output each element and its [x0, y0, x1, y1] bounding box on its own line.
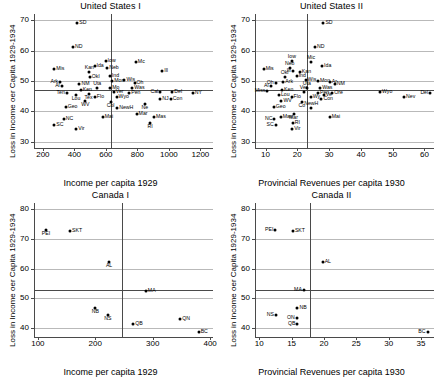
y-axis-tick-label: 40	[3, 324, 29, 332]
data-point-label: Wyo	[382, 89, 392, 94]
data-point-label: Pen	[131, 91, 140, 96]
gridline-horizontal	[35, 298, 213, 299]
data-point	[159, 91, 162, 94]
y-axis-tick-label: 30	[3, 138, 29, 146]
data-point	[309, 60, 312, 63]
data-point	[273, 117, 276, 120]
y-axis-tick-label: 70	[3, 235, 29, 243]
plot-area: 3040506070102030405060SDNDIowMicIdaNebMi…	[255, 14, 434, 149]
data-point-label: Geo	[68, 104, 78, 109]
data-point	[275, 314, 278, 317]
data-point-label: NewH	[119, 105, 133, 110]
data-point-label: Mas	[283, 114, 293, 119]
x-axis-tick-mark	[153, 337, 154, 340]
y-axis-tick-mark	[252, 209, 255, 210]
data-point-label: NS	[267, 313, 274, 318]
data-point	[269, 85, 272, 88]
y-axis-tick-mark	[31, 81, 34, 82]
data-point-label: Lou	[72, 96, 81, 101]
y-axis-tick-label: 30	[224, 138, 250, 146]
plot-area: 4050607080100200300400PEISKTALMANBNSQBQN…	[34, 203, 213, 338]
data-point-label: NB	[92, 309, 99, 314]
data-point-label: Geo	[276, 104, 286, 109]
y-axis-tick-label: 60	[224, 47, 250, 55]
data-point-label: Mic	[307, 55, 315, 60]
x-axis-tick-label: 30	[325, 151, 334, 159]
plot-area: 304050607020040060080010001200SDNDMisArk…	[34, 14, 213, 149]
gridline-horizontal	[35, 209, 213, 210]
gridline-horizontal	[35, 20, 213, 21]
y-axis-tick-mark	[252, 111, 255, 112]
x-axis-tick-mark	[324, 337, 325, 340]
y-axis-tick-label: 40	[224, 107, 250, 115]
data-point-label: Al	[55, 84, 60, 89]
y-axis-tick-mark	[31, 328, 34, 329]
data-point	[96, 87, 99, 90]
data-point-label: QB	[288, 322, 296, 327]
y-axis-tick-mark	[252, 20, 255, 21]
gridline-horizontal	[35, 328, 213, 329]
gridline-horizontal	[35, 142, 213, 143]
data-point	[295, 316, 298, 319]
data-point-label: SKT	[72, 228, 82, 233]
panel-canada-2: Canada II Loss in Income oer Capita 1929…	[221, 189, 442, 378]
x-axis-label: Income per capita 1929	[0, 367, 221, 377]
data-point-label: SC	[56, 122, 63, 127]
data-point-label: WV	[81, 102, 89, 107]
y-axis-tick-label: 50	[3, 294, 29, 302]
x-axis-tick-mark	[329, 148, 330, 151]
data-point-label: Ark	[285, 80, 293, 85]
data-point	[266, 90, 269, 93]
data-point-label: Ten	[56, 91, 64, 96]
data-point-label: PEI	[265, 227, 273, 232]
x-axis-tick-label: 1200	[191, 151, 209, 159]
x-axis-tick-mark	[74, 148, 75, 151]
y-axis-tick-mark	[31, 111, 34, 112]
data-point	[429, 91, 432, 94]
data-point-label: Uta	[93, 81, 101, 86]
gridline-horizontal	[256, 20, 434, 21]
data-point-label: NewH	[304, 101, 318, 106]
data-point-label: MA	[148, 289, 156, 294]
data-point	[60, 85, 63, 88]
data-point-label: QB	[135, 322, 143, 327]
x-axis-tick-label: 20	[293, 151, 302, 159]
x-axis-tick-mark	[200, 148, 201, 151]
y-axis-tick-label: 50	[3, 77, 29, 85]
gridline-horizontal	[256, 298, 434, 299]
y-axis-tick-mark	[31, 209, 34, 210]
data-point	[291, 69, 294, 72]
y-axis-tick-label: 40	[224, 324, 250, 332]
x-axis-tick-label: 300	[146, 340, 159, 348]
data-point	[302, 288, 305, 291]
y-axis-tick-label: 60	[3, 47, 29, 55]
data-point-label: Mai	[105, 114, 113, 119]
y-axis-tick-label: 40	[3, 107, 29, 115]
y-axis-tick-mark	[31, 239, 34, 240]
x-axis-tick-label: 60	[420, 151, 429, 159]
y-axis-tick-label: 60	[224, 265, 250, 273]
gridline-horizontal	[256, 51, 434, 52]
y-axis-tick-label: 70	[224, 16, 250, 24]
horizontal-reference-line	[35, 290, 213, 291]
data-point-label: MA	[294, 287, 302, 292]
x-axis-tick-mark	[297, 148, 298, 151]
panel-united-states-1: United States I Loss in Income oer Capit…	[0, 0, 221, 189]
panel-united-states-2: United States II Loss in Income oer Capi…	[221, 0, 442, 189]
x-axis-tick-mark	[210, 337, 211, 340]
data-point-label: Wyo	[119, 94, 129, 99]
data-point-label: Okl	[281, 70, 289, 75]
data-point-label: Mis	[56, 67, 64, 72]
gridline-horizontal	[35, 239, 213, 240]
gridline-horizontal	[256, 142, 434, 143]
panel-canada-1: Canada I Loss in Income oer Capita 1929-…	[0, 189, 221, 378]
data-point-label: SKT	[295, 228, 305, 233]
y-axis-tick-mark	[31, 20, 34, 21]
y-axis-tick-mark	[252, 328, 255, 329]
x-axis-tick-mark	[421, 337, 422, 340]
x-axis-tick-mark	[259, 337, 260, 340]
y-axis-tick-mark	[31, 51, 34, 52]
gridline-horizontal	[256, 239, 434, 240]
data-point-label: Ver	[300, 85, 308, 90]
x-axis-tick-label: 600	[99, 151, 112, 159]
